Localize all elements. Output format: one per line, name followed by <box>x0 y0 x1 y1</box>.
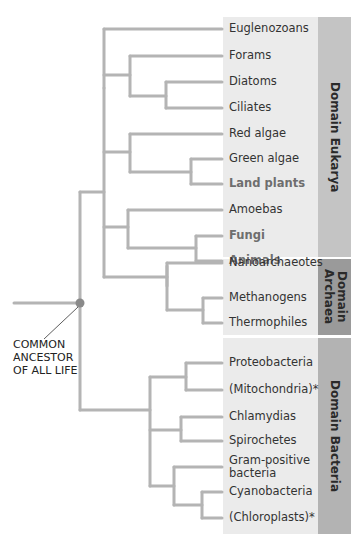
taxon-proteobacteria: Proteobacteria <box>229 356 313 369</box>
taxon-fungi: Fungi <box>229 229 265 242</box>
taxon-methanogens: Methanogens <box>229 291 307 304</box>
taxon-green-algae: Green algae <box>229 152 299 165</box>
ancestor-label-line-1: COMMON <box>13 338 77 351</box>
taxon-amoebas: Amoebas <box>229 203 283 216</box>
taxon-gram-positive-bacteria: Gram-positive bacteria <box>229 454 310 480</box>
common-ancestor-node-icon <box>76 299 85 308</box>
taxon-chlamydias: Chlamydias <box>229 410 296 423</box>
taxon-cyanobacteria: Cyanobacteria <box>229 485 312 498</box>
common-ancestor-label: COMMON ANCESTOR OF ALL LIFE <box>13 338 77 377</box>
taxon-ciliates: Ciliates <box>229 101 271 114</box>
ancestor-label-line-2: ANCESTOR <box>13 351 77 364</box>
ancestor-label-line-3: OF ALL LIFE <box>13 364 77 377</box>
ancestor-pointer-line <box>44 307 78 339</box>
taxon-land-plants: Land plants <box>229 177 305 190</box>
gram-positive-line-2: bacteria <box>229 467 310 480</box>
taxon-mitochondria: (Mitochondria)* <box>229 383 319 396</box>
taxon-forams: Forams <box>229 49 271 62</box>
taxon-thermophiles: Thermophiles <box>229 316 307 329</box>
taxon-red-algae: Red algae <box>229 127 286 140</box>
taxon-chloroplasts: (Chloroplasts)* <box>229 511 315 524</box>
taxon-nanoarchaeotes: Nanoarchaeotes <box>229 256 323 269</box>
taxon-spirochetes: Spirochetes <box>229 434 297 447</box>
taxon-diatoms: Diatoms <box>229 75 277 88</box>
taxon-euglenozoans: Euglenozoans <box>229 22 309 35</box>
